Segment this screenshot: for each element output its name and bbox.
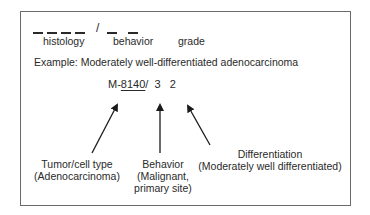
annotation-tumor-line2: (Adenocarcinoma) bbox=[34, 170, 120, 182]
annotation-behavior: Behavior (Malignant, primary site) bbox=[133, 158, 193, 194]
annotation-behavior-line1: Behavior bbox=[133, 158, 193, 170]
annotation-tumor-line1: Tumor/cell type bbox=[34, 158, 120, 170]
arrow-tumor bbox=[92, 105, 117, 153]
annotation-differentiation-line2: (Moderately well differentiated) bbox=[196, 160, 344, 172]
annotation-differentiation-line1: Differentiation bbox=[196, 148, 344, 160]
annotation-behavior-line3: primary site) bbox=[133, 182, 193, 194]
arrow-differentiation bbox=[188, 106, 210, 145]
annotation-tumor: Tumor/cell type (Adenocarcinoma) bbox=[34, 158, 120, 182]
annotation-behavior-line2: (Malignant, bbox=[133, 170, 193, 182]
annotation-differentiation: Differentiation (Moderately well differe… bbox=[196, 148, 344, 172]
